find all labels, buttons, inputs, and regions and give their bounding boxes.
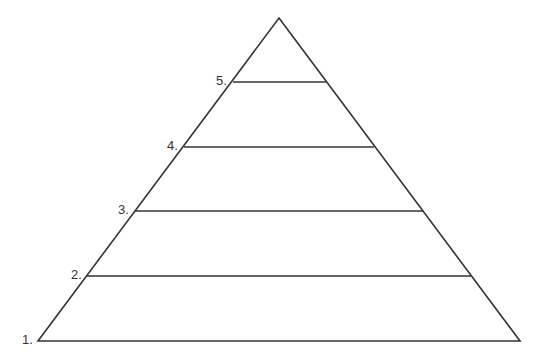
level-label-5: 5. [216, 74, 227, 87]
pyramid-outline [38, 18, 520, 341]
level-label-1: 1. [22, 333, 33, 346]
level-label-4: 4. [167, 139, 178, 152]
level-label-3: 3. [118, 203, 129, 216]
level-label-2: 2. [71, 268, 82, 281]
pyramid-diagram [0, 0, 540, 362]
